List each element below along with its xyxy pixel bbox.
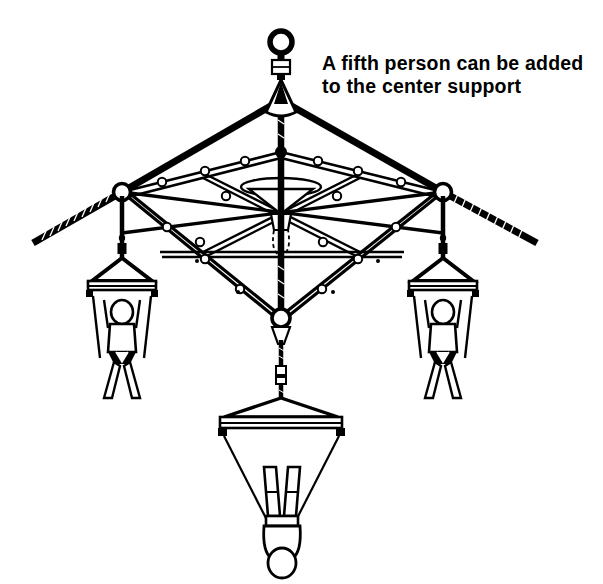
person-head: [268, 548, 296, 578]
ring: [158, 178, 166, 186]
harness-right-bar-endcap: [407, 290, 414, 297]
person-shoulders: [266, 516, 298, 526]
pin-dot: [236, 290, 240, 294]
harness-bottom-bar-endcap: [336, 428, 345, 436]
harness-left-link: [119, 235, 125, 241]
ring: [354, 255, 362, 263]
rigging-illustration: A fifth person can be added to the cente…: [0, 0, 603, 584]
harness-left-strap: [144, 296, 151, 358]
ring: [201, 167, 209, 175]
apex-hardware: [266, 31, 296, 116]
harness-right-bar-line: [409, 285, 477, 287]
harness-left-yoke: [92, 258, 152, 281]
eye-stem: [278, 52, 285, 60]
person-leg: [445, 362, 461, 398]
harness-right-strap: [465, 296, 472, 358]
person-arm: [457, 300, 461, 328]
harness-right-strap: [414, 296, 421, 358]
harness-left-bar-line: [88, 285, 156, 287]
person-head: [432, 300, 454, 324]
person-leg: [124, 362, 140, 398]
rope-tail-right: [443, 192, 537, 243]
harness-right-yoke: [413, 258, 473, 281]
harness-left-bar-endcap: [151, 290, 158, 297]
harness-right-connector: [439, 243, 448, 254]
harness-left-person: [104, 300, 140, 398]
person-arm: [425, 300, 429, 328]
harness-left-strap: [93, 296, 100, 358]
ring: [201, 255, 209, 263]
illustration-root: A fifth person can be added to the cente…: [0, 0, 603, 584]
ring: [392, 223, 400, 231]
person-leg: [104, 362, 120, 398]
caption-line-1: A fifth person can be added: [322, 52, 583, 74]
ring: [241, 157, 249, 165]
rope-tail-left: [33, 192, 122, 243]
harness-bottom-bar-endcap: [218, 428, 227, 436]
person-torso: [108, 324, 136, 352]
ring: [222, 192, 230, 200]
caption-block: A fifth person can be added to the cente…: [322, 52, 583, 97]
harness-right-person: [425, 300, 461, 398]
caption-line-2: to the center support: [322, 75, 522, 97]
harness-left-bar-endcap: [86, 290, 93, 297]
harness-bottom-yoke: [224, 398, 338, 417]
ring: [163, 223, 171, 231]
harness-bottom-connector: [276, 366, 286, 375]
harness-bottom-link: [276, 377, 286, 384]
ring: [333, 192, 341, 200]
harness-bottom-bar-line: [220, 422, 342, 424]
center-vertical-rope: [278, 96, 284, 322]
person-head: [111, 300, 133, 324]
ring: [397, 178, 405, 186]
harness-bottom-person: [264, 467, 301, 578]
ring: [314, 157, 322, 165]
person-arm: [136, 300, 140, 328]
harness-right-link: [440, 235, 446, 241]
ring: [354, 167, 362, 175]
person-leg: [425, 362, 441, 398]
pin-dot: [331, 290, 335, 294]
person-arm: [104, 300, 108, 328]
master-lifting-eye-icon: [270, 31, 292, 53]
harness-right-bar-endcap: [472, 290, 479, 297]
corner-node-top: [275, 146, 287, 158]
harness-left: [86, 196, 158, 398]
harness-right: [407, 196, 479, 398]
corner-node-bottom: [272, 309, 290, 327]
ring: [319, 238, 327, 246]
ring: [196, 238, 204, 246]
pin-dot: [376, 259, 380, 263]
ring: [318, 285, 326, 293]
pin-dot: [195, 259, 199, 263]
harness-left-connector: [118, 243, 127, 254]
person-torso: [429, 324, 457, 352]
harness-bottom-center: [218, 340, 345, 578]
